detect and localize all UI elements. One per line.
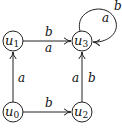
automaton-diagram: a b b a a b a b u0 u1 u2 u3: [0, 0, 122, 131]
label-loop-inner: a: [102, 11, 109, 25]
label-u2-u3-right: b: [88, 71, 96, 85]
label-u0-u1: a: [18, 71, 25, 85]
label-u1-u3-top: b: [45, 25, 53, 39]
label-u2-u3-left: a: [72, 71, 79, 85]
node-u3: u3: [72, 31, 92, 51]
label-loop-outer: b: [114, 0, 122, 13]
node-u0: u0: [3, 102, 23, 122]
label-u1-u3-bottom: a: [45, 41, 52, 55]
label-u0-u2: b: [45, 96, 53, 110]
node-u1: u1: [3, 31, 23, 51]
node-u2: u2: [72, 102, 92, 122]
